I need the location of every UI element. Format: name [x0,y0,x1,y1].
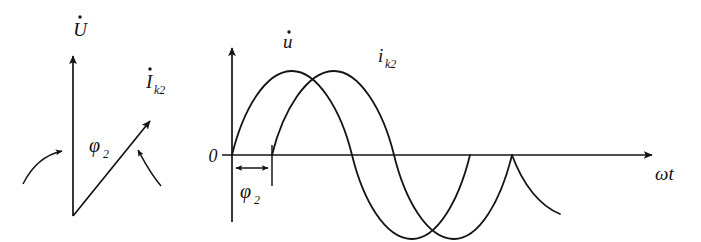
voltage-phasor-label-text: U [73,19,88,40]
current-waveform-subscript: k2 [385,57,396,71]
current-phasor-subscript: k2 [154,83,165,97]
waveform-x-axis-label: ωt [655,163,674,184]
current-phasor-line [73,121,150,216]
waveform-origin-label: 0 [209,146,218,166]
current-waveform-label: i k2 [378,45,396,71]
waveform-phase-symbol: φ [240,180,251,203]
phasor-angle-subscript: 2 [103,147,109,161]
current-phasor-dot-icon [148,67,151,70]
left-curved-arrow-icon [23,151,62,184]
phasor-angle-label: φ 2 [89,134,109,161]
voltage-waveform-label: u [283,30,293,52]
voltage-waveform-label-text: u [283,31,293,52]
phasor-angle-symbol: φ [89,134,100,157]
right-curved-arrow-icon [138,150,161,186]
current-waveform-label-text: i [378,45,383,66]
waveform-plot: 0 ωt φ 2 u [209,30,675,239]
waveform-tail-segment [512,155,560,214]
waveform-phase-label: φ 2 [240,180,260,207]
waveform-phase-subscript: 2 [254,193,260,207]
current-phasor-label-text: I [145,71,154,92]
current-phasor-label: I k2 [145,67,165,97]
voltage-phasor-label: U [73,15,88,40]
voltage-waveform-dot-icon [287,30,290,33]
phasor-diagram: U I k2 φ 2 [23,15,165,216]
voltage-phasor-dot-icon [78,15,81,18]
technical-figure: U I k2 φ 2 [0,0,701,242]
figure-root: U I k2 φ 2 [0,0,701,242]
